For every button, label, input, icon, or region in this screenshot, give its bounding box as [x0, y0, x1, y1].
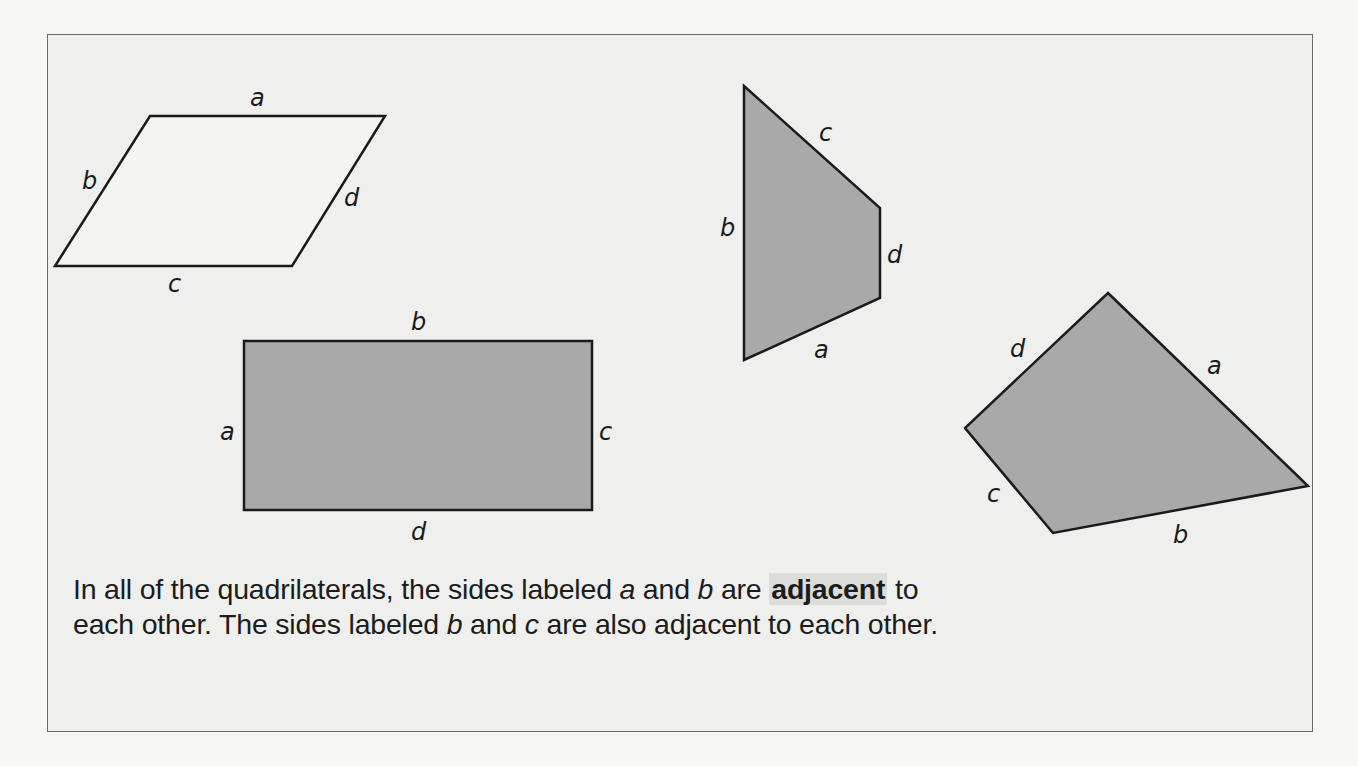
side-label-a: a — [1207, 352, 1222, 380]
variable-a: a — [620, 573, 636, 605]
variable-c: c — [525, 608, 539, 640]
kite-quadrilateral: a b c d — [965, 293, 1308, 549]
side-label-a: a — [814, 336, 829, 364]
side-label-b: b — [411, 308, 426, 336]
variable-b: b — [447, 608, 463, 640]
side-label-d: d — [344, 184, 360, 212]
rectangle: a b c d — [220, 308, 612, 546]
caption-segment: are — [713, 573, 769, 605]
trapezoid: a b c d — [720, 86, 903, 364]
variable-b: b — [698, 573, 714, 605]
side-label-b: b — [720, 214, 735, 242]
caption-segment: and — [462, 608, 524, 640]
parallelogram: a b c d — [55, 84, 385, 298]
side-label-b: b — [1173, 521, 1188, 549]
vocabulary-term-adjacent[interactable]: adjacent — [769, 573, 887, 605]
side-label-c: c — [168, 270, 181, 298]
side-label-a: a — [220, 418, 235, 446]
side-label-b: b — [82, 167, 97, 195]
caption-segment: In all of the quadrilaterals, the sides … — [73, 573, 620, 605]
caption-segment: are also adjacent to each other. — [539, 608, 938, 640]
side-label-a: a — [250, 84, 265, 112]
side-label-c: c — [599, 418, 612, 446]
side-label-d: d — [1010, 335, 1026, 363]
side-label-d: d — [411, 518, 427, 546]
side-label-c: c — [987, 480, 1000, 508]
caption-segment: and — [635, 573, 697, 605]
side-label-d: d — [887, 241, 903, 269]
caption-text: In all of the quadrilaterals, the sides … — [73, 572, 953, 642]
side-label-c: c — [819, 119, 832, 147]
quadrilaterals-figure: a b c d a b c d a b c d a b c d — [0, 0, 1358, 766]
